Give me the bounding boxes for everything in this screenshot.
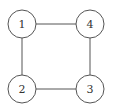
node-2: 2 xyxy=(8,75,36,103)
node-label: 2 xyxy=(19,83,26,96)
node-label: 4 xyxy=(87,18,94,31)
node-4: 4 xyxy=(76,10,104,38)
node-label: 3 xyxy=(87,83,94,96)
graph-diagram: 1 4 2 3 xyxy=(0,0,113,108)
node-3: 3 xyxy=(76,75,104,103)
node-label: 1 xyxy=(19,18,26,31)
node-1: 1 xyxy=(8,10,36,38)
